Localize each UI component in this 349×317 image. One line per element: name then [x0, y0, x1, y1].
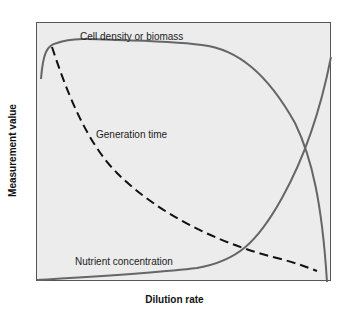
- nutrient-concentration-curve: [37, 57, 331, 280]
- generation-time-curve: [52, 47, 317, 271]
- chart-curves: [37, 23, 332, 282]
- x-axis-label: Dilution rate: [0, 294, 349, 305]
- cell-density-curve: [41, 39, 327, 282]
- cell-density-label: Cell density or biomass: [80, 31, 183, 42]
- plot-area: Cell density or biomass Generation time …: [36, 22, 331, 281]
- generation-time-label: Generation time: [96, 129, 167, 140]
- y-axis-label: Measurement value: [7, 101, 18, 201]
- nutrient-concentration-label: Nutrient concentration: [75, 256, 173, 267]
